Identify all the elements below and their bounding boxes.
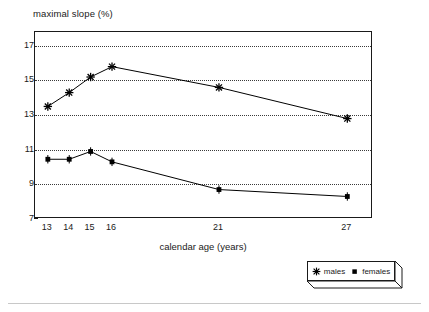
y-tick-label-7: 7 bbox=[18, 213, 34, 223]
series-layer bbox=[35, 32, 373, 219]
data-point-males-27 bbox=[343, 114, 351, 122]
x-tick-label-21: 21 bbox=[213, 222, 223, 232]
series-females bbox=[45, 147, 349, 200]
plot-area bbox=[34, 31, 372, 218]
footer-divider bbox=[8, 303, 421, 304]
legend-item-females: females bbox=[350, 267, 390, 276]
x-tick-label-15: 15 bbox=[85, 222, 95, 232]
legend-panel: males females bbox=[307, 261, 395, 281]
data-point-males-14 bbox=[65, 88, 73, 96]
series-males bbox=[44, 62, 352, 122]
legend-label-females: females bbox=[362, 267, 390, 276]
asterisk-marker-icon bbox=[312, 267, 321, 276]
data-point-females-15 bbox=[88, 147, 93, 155]
x-axis-tick-labels: 131415162127 bbox=[34, 222, 372, 236]
y-axis-tick-labels: 1715131197 bbox=[14, 31, 34, 218]
x-tick-label-13: 13 bbox=[42, 222, 52, 232]
data-point-females-21 bbox=[217, 185, 222, 193]
data-point-females-14 bbox=[67, 155, 72, 163]
x-tick-label-27: 27 bbox=[341, 222, 351, 232]
data-point-females-16 bbox=[110, 158, 115, 166]
legend-label-males: males bbox=[324, 267, 345, 276]
data-point-females-13 bbox=[45, 155, 50, 163]
y-tick-label-13: 13 bbox=[18, 109, 34, 119]
x-tick-label-14: 14 bbox=[63, 222, 73, 232]
y-tick-label-17: 17 bbox=[18, 40, 34, 50]
x-axis-title: calendar age (years) bbox=[34, 241, 372, 252]
data-point-males-13 bbox=[44, 102, 52, 110]
square-marker-icon bbox=[350, 267, 359, 276]
y-tick-label-15: 15 bbox=[18, 74, 34, 84]
legend: males females bbox=[307, 261, 402, 284]
y-axis-title: maximal slope (%) bbox=[33, 8, 113, 19]
legend-item-males: males bbox=[312, 267, 345, 276]
x-tick-label-16: 16 bbox=[106, 222, 116, 232]
data-point-males-15 bbox=[86, 73, 94, 81]
data-point-males-16 bbox=[108, 62, 116, 70]
y-tick-label-11: 11 bbox=[18, 144, 34, 154]
chart-figure: maximal slope (%) 1715131197 13141516212… bbox=[0, 0, 429, 312]
y-tick-label-9: 9 bbox=[18, 178, 34, 188]
data-point-females-27 bbox=[345, 192, 350, 200]
data-point-males-21 bbox=[215, 83, 223, 91]
